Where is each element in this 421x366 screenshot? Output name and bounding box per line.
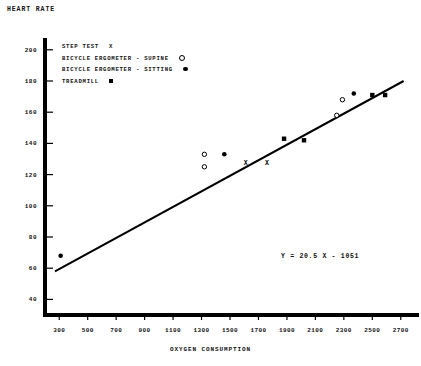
data-point-open-circle xyxy=(202,165,206,169)
data-point-square xyxy=(370,93,374,97)
axis-ticks xyxy=(47,50,401,320)
data-point-open-circle xyxy=(335,113,339,117)
data-point-filled-circle xyxy=(58,253,63,258)
data-point-square xyxy=(383,93,387,97)
data-point-square xyxy=(282,137,286,141)
data-points: XX xyxy=(58,91,387,258)
plot-area: XX xyxy=(0,0,421,366)
regression-line xyxy=(55,81,404,271)
x-axis-title: OXYGEN CONSUMPTION xyxy=(0,346,421,353)
axes xyxy=(43,38,419,315)
data-point-open-circle xyxy=(202,152,206,156)
data-point-open-circle xyxy=(340,98,344,102)
regression-line-path xyxy=(55,81,404,271)
data-point-x: X xyxy=(265,160,269,167)
data-point-filled-circle xyxy=(222,152,227,157)
data-point-filled-circle xyxy=(352,91,357,96)
chart-container: HEART RATE STEP TEST X BICYCLE ERGOMETER… xyxy=(0,0,421,366)
data-point-square xyxy=(302,138,306,142)
data-point-x: X xyxy=(244,160,248,167)
